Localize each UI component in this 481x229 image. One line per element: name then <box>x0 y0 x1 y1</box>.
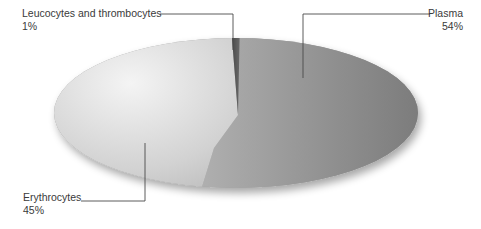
label-leucocytes-name: Leucocytes and thrombocytes <box>22 7 162 20</box>
label-erythrocytes-name: Erythrocytes <box>23 191 81 204</box>
label-leucocytes-value: 1% <box>22 20 162 33</box>
label-leucocytes-thrombocytes: Leucocytes and thrombocytes 1% <box>22 7 162 33</box>
label-erythrocytes-value: 45% <box>23 204 81 217</box>
slice-plasma <box>198 30 481 200</box>
label-plasma-name: Plasma <box>428 7 463 20</box>
label-plasma: Plasma 54% <box>428 7 463 33</box>
slice-erythrocytes <box>0 20 238 200</box>
label-erythrocytes: Erythrocytes 45% <box>23 191 81 217</box>
label-plasma-value: 54% <box>428 20 463 33</box>
